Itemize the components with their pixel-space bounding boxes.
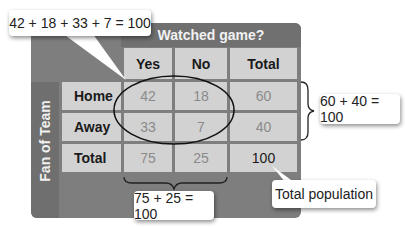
row-totals-brace-icon: [301, 82, 314, 140]
column-totals-callout: 75 + 25 = 100: [134, 191, 214, 220]
callout-pointer: [58, 30, 126, 80]
column-totals-brace-icon: [124, 177, 227, 189]
total-population-callout: Total population: [272, 180, 376, 208]
joint-frequency-ellipse: [114, 76, 234, 144]
row-totals-callout: 60 + 40 = 100: [320, 94, 400, 124]
joint-sum-callout: 42 + 18 + 33 + 7 = 100: [9, 10, 151, 36]
